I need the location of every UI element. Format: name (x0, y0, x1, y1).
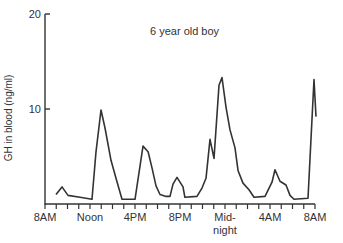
x-tick-label: 8AM (34, 211, 57, 223)
x-tick-label: 4PM (124, 211, 147, 223)
x-axis: 8AMNoon4PM8PMMid-night4AM8AM (34, 204, 327, 236)
y-tick-label: 20 (29, 8, 41, 20)
growth-hormone-line-chart: 2010 8AMNoon4PM8PMMid-night4AM8AM 6 year… (0, 0, 343, 243)
x-tick-label: Noon (77, 211, 103, 223)
y-tick-label: 10 (29, 103, 41, 115)
x-tick-label: 8AM (304, 211, 327, 223)
x-tick-label-line2: night (213, 224, 237, 236)
gh-series-line (56, 78, 316, 200)
chart-title: 6 year old boy (150, 25, 220, 37)
x-tick-label: 8PM (169, 211, 192, 223)
x-tick-label: Mid- (214, 211, 236, 223)
x-tick-label: 4AM (259, 211, 282, 223)
y-axis: 2010 (29, 8, 50, 205)
y-axis-label: GH in blood (ng/ml) (3, 75, 14, 162)
